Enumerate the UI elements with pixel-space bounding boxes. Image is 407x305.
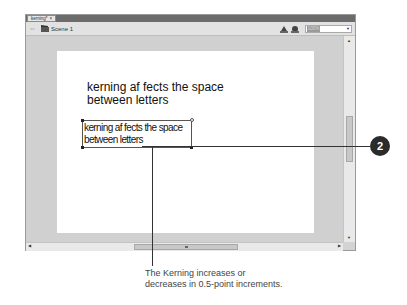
static-text-line-2: between letters — [87, 94, 224, 107]
editing-text-line-2: between letters — [84, 134, 182, 146]
pasteboard: kerning af fects the space between lette… — [26, 36, 343, 242]
chevron-down-icon[interactable]: ▼ — [346, 26, 350, 32]
scroll-up-icon[interactable]: ▲ — [347, 38, 351, 43]
resize-handle[interactable] — [190, 118, 194, 122]
edit-scene-icon[interactable] — [291, 25, 299, 33]
stage[interactable]: kerning af fects the space between lette… — [57, 51, 314, 233]
vertical-scroll-thumb[interactable] — [346, 116, 353, 162]
flash-document-window: kerning* × ⇦ Scene 1 100% ▼ kerning af f… — [25, 14, 356, 251]
editing-text-box[interactable]: kerning af fects the space between lette… — [82, 120, 192, 148]
zoom-value[interactable]: 100% — [307, 26, 320, 32]
edit-symbols-icon[interactable] — [280, 25, 288, 33]
callout-caption: The Kerning increases or decreases in 0.… — [145, 268, 305, 290]
selection-handle[interactable] — [81, 119, 84, 122]
scene-clapper-icon — [41, 25, 49, 32]
horizontal-scrollbar[interactable]: ◀ ▶ — [26, 242, 343, 251]
close-icon[interactable]: × — [50, 16, 53, 22]
scroll-down-icon[interactable]: ▼ — [347, 235, 351, 240]
scene-label[interactable]: Scene 1 — [51, 25, 73, 33]
grip-icon — [185, 246, 188, 248]
tab-kerning[interactable]: kerning* × — [27, 15, 56, 22]
tab-label: kerning* — [31, 16, 48, 22]
static-text-block[interactable]: kerning af fects the space between lette… — [87, 81, 224, 107]
scroll-right-icon[interactable]: ▶ — [338, 243, 341, 248]
selection-handle[interactable] — [81, 146, 84, 149]
zoom-dropdown[interactable]: 100% ▼ — [305, 25, 352, 33]
callout-leader-vertical — [152, 147, 153, 266]
horizontal-scroll-thumb[interactable] — [134, 244, 238, 250]
step-number-badge: 2 — [370, 136, 390, 156]
back-arrow-icon[interactable]: ⇦ — [30, 25, 35, 32]
editing-text[interactable]: kerning af fects the space between lette… — [84, 122, 182, 146]
callout-leader-horizontal — [142, 146, 370, 147]
document-tab-strip: kerning* × — [26, 15, 355, 22]
scroll-left-icon[interactable]: ◀ — [28, 243, 31, 248]
editing-text-line-1: kerning af fects the space — [84, 122, 182, 134]
caption-line-1: The Kerning increases or — [145, 268, 305, 279]
edit-bar: ⇦ Scene 1 100% ▼ — [26, 22, 355, 36]
vertical-scrollbar[interactable]: ▲ ▼ — [343, 36, 355, 242]
caption-line-2: decreases in 0.5-point increments. — [145, 279, 305, 290]
